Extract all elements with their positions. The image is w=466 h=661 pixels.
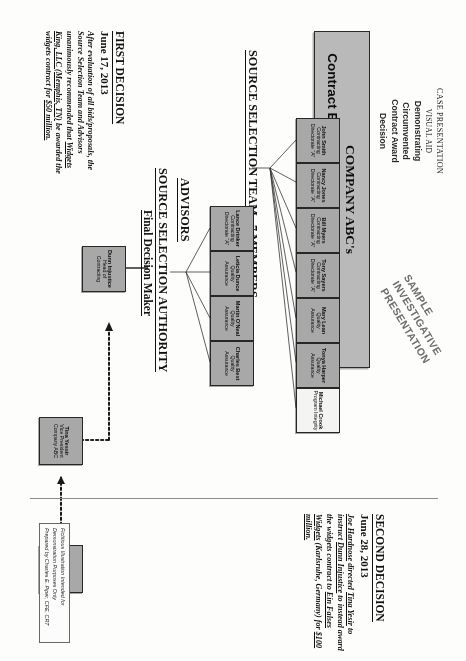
second-decision-body: Joe Hardnose directed Tina Yesir to inst…	[302, 514, 355, 654]
section-subheading-authority-label: Final Decision Maker	[141, 210, 154, 316]
header-line-3: Demonstrating	[411, 56, 423, 206]
node-line-3: Directorate “A”	[309, 169, 315, 203]
second-decision-body-d: (Karlsruhe, Germany) for	[314, 541, 323, 632]
advisor-node-martin-oneal[interactable]: Martin O’Neal Quality Assurance	[210, 296, 254, 341]
first-decision-emph-2: $50 million.	[44, 100, 53, 141]
credit-line-1: Fictitious Illustration Intended for Dem…	[50, 528, 66, 638]
credit-box: Fictitious Illustration Intended for Dem…	[39, 523, 70, 643]
title-line-1: COMPANY ABC's	[343, 145, 359, 254]
node-line-3: Contracting	[95, 256, 101, 283]
section-heading-advisors: ADVISORS	[177, 178, 192, 242]
section-heading-authority-label: SOURCE SELECTION AUTHORITY	[155, 168, 170, 372]
team-node-john-smith[interactable]: John Smith Contracting Directorate “A”	[296, 118, 340, 163]
team-node-michael-crook[interactable]: Michael Crook Program Integrity	[296, 388, 340, 433]
header-line-1: CASE PRESENTATION	[433, 56, 444, 206]
header-line-4: Circumvented	[400, 56, 412, 206]
team-node-mary-lean[interactable]: Mary Lean Quality Assurance	[296, 298, 340, 343]
team-node-tonya-harper[interactable]: Tonya Harper Quality Assurance	[296, 343, 340, 388]
page-canvas: CASE PRESENTATION VISUAL AID Demonstrati…	[0, 0, 466, 661]
section-heading-advisors-label: ADVISORS	[177, 178, 192, 242]
scanned-page-rotated: CASE PRESENTATION VISUAL AID Demonstrati…	[0, 0, 466, 661]
first-decision-block: FIRST DECISION June 17, 2013 After evalu…	[42, 31, 130, 191]
node-line-2: Quality Assurance	[223, 343, 235, 384]
node-line-2: Quality Assurance	[309, 345, 321, 386]
header-line-2: VISUAL AID	[423, 56, 433, 206]
arrowhead-tina-to-authority	[105, 322, 113, 331]
executive-node-tina-yessir[interactable]: Tina Yessir Vice President Company ABC	[39, 417, 83, 465]
node-line-3: Directorate “A”	[309, 214, 315, 248]
page-divider	[30, 498, 438, 499]
second-decision-emph-2: Tina Yesir	[346, 592, 355, 626]
node-line-2: Program Integrity	[312, 391, 318, 431]
node-line-3: Directorate “A”	[309, 124, 315, 158]
first-decision-date: June 17, 2013	[97, 31, 111, 191]
team-node-bill-myers[interactable]: Bill Myers Contracting Directorate “A”	[296, 208, 340, 253]
advisor-node-leticia-dunce[interactable]: Leticia Dunce Quality Assurance	[210, 251, 254, 296]
header-line-5: Contract Award	[388, 56, 400, 206]
authority-node-dunn-injustice[interactable]: Dunn Injustice Head of Contracting	[82, 246, 126, 292]
section-subheading-authority: Final Decision Maker	[142, 210, 154, 316]
second-decision-block: SECOND DECISION June 28, 2013 Joe Hardno…	[302, 514, 390, 654]
second-decision-date: June 28, 2013	[357, 514, 371, 654]
node-line-2: Quality Assurance	[223, 298, 235, 339]
second-decision-body-a: directed	[346, 561, 355, 592]
header-line-6: Decision	[377, 56, 389, 206]
node-line-2: Quality Assurance	[223, 253, 235, 294]
second-decision-emph-3: Dunn Injustice	[336, 542, 345, 593]
case-presentation-header: CASE PRESENTATION VISUAL AID Demonstrati…	[377, 56, 444, 206]
first-decision-heading: FIRST DECISION	[112, 31, 126, 124]
second-decision-heading: SECOND DECISION	[372, 514, 386, 622]
node-line-2: Quality Assurance	[309, 300, 321, 341]
credit-line-2: Prepared by Charles E. Piper, CFE, CRT	[43, 528, 51, 638]
team-node-nancy-jones[interactable]: Nancy Jones Contracting Directorate “A”	[296, 163, 340, 208]
team-node-tony-sayers[interactable]: Tony Sayers Contracting Directorate “A”	[296, 253, 340, 298]
advisor-node-charles-best[interactable]: Charles Best Quality Assurance	[210, 341, 254, 386]
node-line-3: Directorate “A”	[309, 259, 315, 293]
advisor-node-lance-drinker[interactable]: Lance Drinker Contracting Directorate “A…	[210, 206, 254, 251]
first-decision-body: After evaluation of all bids/proposals, …	[42, 31, 95, 181]
node-line-3: Company ABC	[52, 424, 58, 458]
node-line-3: Directorate “A”	[223, 212, 229, 246]
arrowhead-joe-to-tina	[57, 476, 65, 484]
second-decision-emph-1: Joe Hardnose	[346, 514, 355, 561]
section-heading-authority: SOURCE SELECTION AUTHORITY	[155, 168, 170, 372]
